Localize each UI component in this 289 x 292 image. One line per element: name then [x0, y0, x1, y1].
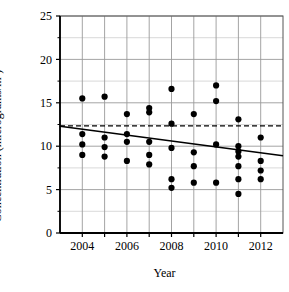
data-point [258, 134, 264, 140]
data-point [258, 158, 264, 164]
data-point [191, 111, 197, 117]
data-point [102, 144, 108, 150]
data-point [213, 141, 219, 147]
data-point [79, 131, 85, 137]
y-tick-label: 5 [46, 183, 52, 197]
x-tick-label: 2010 [204, 239, 228, 253]
y-axis-title: Concentration (micrograms/m³) [0, 0, 22, 292]
y-tick-label: 0 [46, 226, 52, 240]
data-point [235, 191, 241, 197]
data-point [235, 163, 241, 169]
data-point [191, 180, 197, 186]
data-point [124, 139, 130, 145]
data-point [79, 95, 85, 101]
data-point [235, 116, 241, 122]
y-tick-label: 10 [40, 139, 52, 153]
data-point [79, 152, 85, 158]
data-point [102, 94, 108, 100]
x-axis-tick-labels: 20042006200820102012 [70, 239, 272, 253]
data-point [102, 134, 108, 140]
data-point [191, 149, 197, 155]
data-point [168, 176, 174, 182]
data-point [124, 131, 130, 137]
plot-canvas: 0510152025 20042006200820102012 [0, 0, 289, 292]
y-tick-label: 25 [40, 9, 52, 23]
data-point [146, 161, 152, 167]
x-tick-label: 2004 [70, 239, 94, 253]
data-point [124, 158, 130, 164]
data-point [79, 141, 85, 147]
x-tick-label: 2006 [115, 239, 139, 253]
y-tick-label: 20 [40, 53, 52, 67]
data-point [191, 163, 197, 169]
data-point [146, 139, 152, 145]
data-point [168, 185, 174, 191]
data-point [168, 121, 174, 127]
data-point [258, 176, 264, 182]
data-point [213, 180, 219, 186]
data-point [102, 154, 108, 160]
data-point [168, 86, 174, 92]
data-point [146, 109, 152, 115]
data-point [258, 167, 264, 173]
scatter-plot-figure: Concentration (micrograms/m³) Year 05101… [0, 0, 289, 292]
data-point [124, 111, 130, 117]
data-point [146, 152, 152, 158]
data-point [235, 176, 241, 182]
x-tick-label: 2008 [160, 239, 184, 253]
data-point [213, 82, 219, 88]
y-tick-label: 15 [40, 96, 52, 110]
x-tick-label: 2012 [249, 239, 273, 253]
x-axis-title: Year [0, 266, 289, 281]
data-point [213, 98, 219, 104]
data-point [235, 154, 241, 160]
data-point [168, 145, 174, 151]
y-axis-tick-labels: 0510152025 [40, 9, 52, 240]
